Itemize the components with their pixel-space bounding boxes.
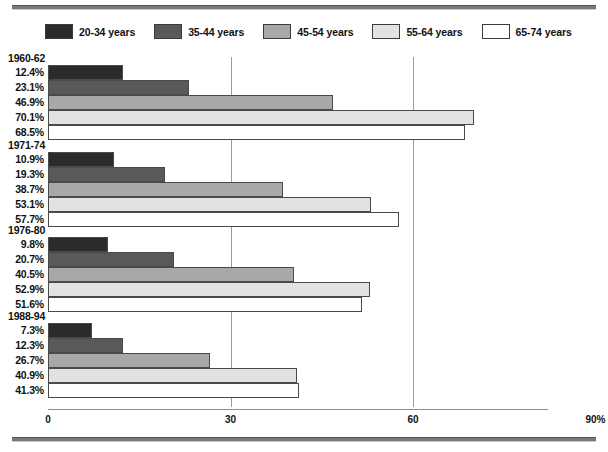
bar-55-64-years[interactable] [48,110,474,125]
bar-row: 57.7% [0,212,608,227]
bar-value-label: 40.5% [0,268,44,280]
chart-plot-area: 0306090% 1960-6212.4%23.1%46.9%70.1%68.5… [0,52,608,420]
bar-45-54-years[interactable] [48,95,333,110]
x-tick-label: 0 [45,414,51,425]
x-tick-label: 90% [585,414,605,425]
legend-item-label: 55-64 years [406,26,462,38]
bar-row: 23.1% [0,80,608,95]
bar-20-34-years[interactable] [48,152,114,167]
legend-item-3[interactable]: 55-64 years [372,24,462,39]
bar-row: 51.6% [0,297,608,312]
bar-row: 41.3% [0,383,608,398]
legend-item-4[interactable]: 65-74 years [482,24,572,39]
bar-value-label: 9.8% [0,238,44,250]
top-divider-rule [12,5,596,10]
bar-row: 9.8% [0,237,608,252]
bar-35-44-years[interactable] [48,252,174,267]
chart-legend: 20-34 years35-44 years45-54 years55-64 y… [45,24,591,39]
bar-value-label: 38.7% [0,183,44,195]
bar-row: 70.1% [0,110,608,125]
legend-swatch-icon [154,24,182,39]
bar-55-64-years[interactable] [48,368,297,383]
bar-value-label: 19.3% [0,168,44,180]
bottom-divider-rule [12,437,596,442]
legend-swatch-icon [45,24,73,39]
x-tick-label: 30 [225,414,236,425]
bar-row: 12.3% [0,338,608,353]
bar-55-64-years[interactable] [48,197,371,212]
bars-container: 10.9%19.3%38.7%53.1%57.7% [0,152,608,227]
bars-container: 9.8%20.7%40.5%52.9%51.6% [0,237,608,312]
legend-item-label: 65-74 years [516,26,572,38]
bar-value-label: 53.1% [0,198,44,210]
bar-20-34-years[interactable] [48,323,92,338]
bar-45-54-years[interactable] [48,267,294,282]
group-label: 1960-62 [8,52,45,64]
bar-20-34-years[interactable] [48,237,108,252]
bar-value-label: 41.3% [0,384,44,396]
legend-item-0[interactable]: 20-34 years [45,24,135,39]
bar-35-44-years[interactable] [48,167,165,182]
bar-row: 26.7% [0,353,608,368]
x-axis-line [48,409,548,410]
bar-55-64-years[interactable] [48,282,370,297]
bar-row: 52.9% [0,282,608,297]
bar-value-label: 20.7% [0,253,44,265]
bar-65-74-years[interactable] [48,383,299,398]
bar-value-label: 26.7% [0,354,44,366]
legend-swatch-icon [372,24,400,39]
bars-container: 12.4%23.1%46.9%70.1%68.5% [0,65,608,140]
bar-row: 40.9% [0,368,608,383]
bar-row: 53.1% [0,197,608,212]
bar-row: 46.9% [0,95,608,110]
bar-20-34-years[interactable] [48,65,123,80]
legend-item-label: 45-54 years [297,26,353,38]
bar-value-label: 68.5% [0,126,44,138]
legend-swatch-icon [263,24,291,39]
bar-65-74-years[interactable] [48,297,362,312]
bar-value-label: 70.1% [0,111,44,123]
bar-35-44-years[interactable] [48,80,189,95]
legend-item-label: 20-34 years [79,26,135,38]
bar-45-54-years[interactable] [48,353,210,368]
bar-value-label: 10.9% [0,153,44,165]
bar-value-label: 23.1% [0,81,44,93]
bar-35-44-years[interactable] [48,338,123,353]
group-label: 1971-74 [8,139,45,151]
x-tick-label: 60 [407,414,418,425]
bar-value-label: 7.3% [0,324,44,336]
bars-container: 7.3%12.3%26.7%40.9%41.3% [0,323,608,398]
bar-value-label: 46.9% [0,96,44,108]
legend-item-2[interactable]: 45-54 years [263,24,353,39]
legend-swatch-icon [482,24,510,39]
bar-value-label: 52.9% [0,283,44,295]
bar-row: 68.5% [0,125,608,140]
bar-value-label: 12.3% [0,339,44,351]
bar-value-label: 51.6% [0,298,44,310]
bar-65-74-years[interactable] [48,212,399,227]
bar-value-label: 40.9% [0,369,44,381]
bar-45-54-years[interactable] [48,182,283,197]
bar-row: 10.9% [0,152,608,167]
bar-row: 19.3% [0,167,608,182]
bar-row: 7.3% [0,323,608,338]
bar-row: 20.7% [0,252,608,267]
group-label: 1976-80 [8,224,45,236]
group-label: 1988-94 [8,310,45,322]
bar-65-74-years[interactable] [48,125,465,140]
bar-row: 38.7% [0,182,608,197]
bar-row: 12.4% [0,65,608,80]
legend-item-1[interactable]: 35-44 years [154,24,244,39]
bar-row: 40.5% [0,267,608,282]
legend-item-label: 35-44 years [188,26,244,38]
bar-value-label: 12.4% [0,66,44,78]
